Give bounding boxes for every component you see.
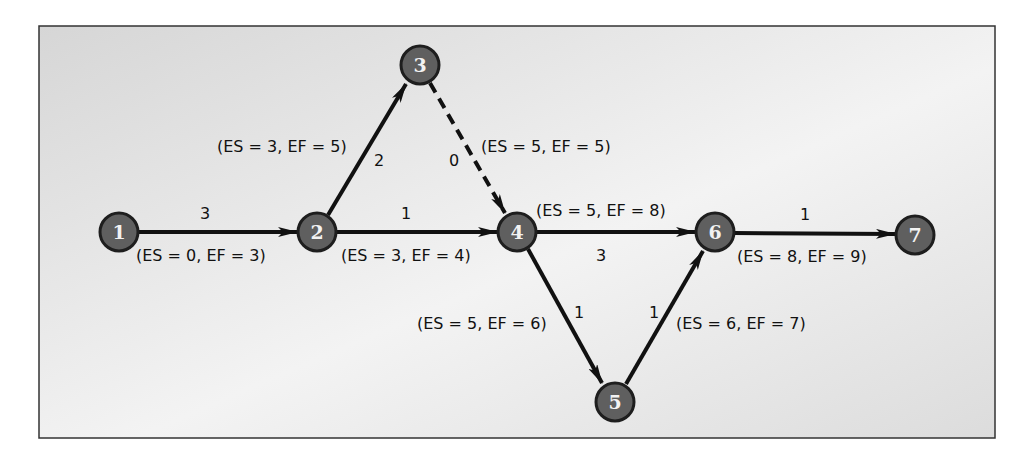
es-ef-4-5: (ES = 5, EF = 6) <box>417 314 547 333</box>
node-1: 1 <box>100 213 138 251</box>
duration-3-4: 0 <box>449 151 459 170</box>
node-7-label: 7 <box>908 224 921 246</box>
node-1-label: 1 <box>112 221 125 243</box>
node-2: 2 <box>298 213 336 251</box>
es-ef-1-2: (ES = 0, EF = 3) <box>136 246 266 265</box>
node-6-label: 6 <box>708 221 721 243</box>
node-4-label: 4 <box>510 221 523 243</box>
node-5: 5 <box>596 383 634 421</box>
es-ef-2-3: (ES = 3, EF = 5) <box>217 137 347 156</box>
duration-4-5: 1 <box>574 303 584 322</box>
node-5-label: 5 <box>608 391 621 413</box>
duration-2-4: 1 <box>401 204 411 223</box>
es-ef-2-4: (ES = 3, EF = 4) <box>341 246 471 265</box>
es-ef-6-7: (ES = 8, EF = 9) <box>737 247 867 266</box>
duration-4-6: 3 <box>596 246 606 265</box>
duration-1-2: 3 <box>200 204 210 223</box>
edge-6-7 <box>734 233 895 234</box>
es-ef-5-6: (ES = 6, EF = 7) <box>676 314 806 333</box>
node-3: 3 <box>401 46 439 84</box>
network-diagram: 3 2 1 0 3 1 1 1 (ES = 0, EF = 3) (ES = 3… <box>0 0 1019 465</box>
duration-5-6: 1 <box>649 303 659 322</box>
es-ef-3-4: (ES = 5, EF = 5) <box>481 137 611 156</box>
duration-2-3: 2 <box>374 151 384 170</box>
node-7: 7 <box>896 216 934 254</box>
node-4: 4 <box>498 213 536 251</box>
node-2-label: 2 <box>310 221 323 243</box>
node-6: 6 <box>696 213 734 251</box>
duration-6-7: 1 <box>800 205 810 224</box>
node-3-label: 3 <box>413 54 426 76</box>
es-ef-4-6: (ES = 5, EF = 8) <box>536 201 666 220</box>
